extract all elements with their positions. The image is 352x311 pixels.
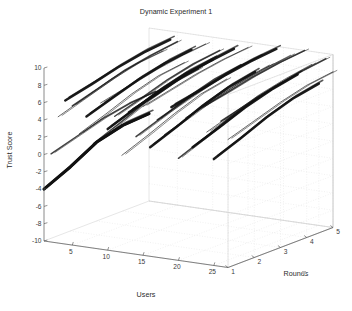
- floor-outline: [44, 201, 333, 268]
- chart-title: Dynamic Experiment 1: [140, 7, 212, 16]
- z-tick-mark: [44, 154, 47, 155]
- wall-left-grid-z: [149, 132, 333, 159]
- wall-left-grid-z: [149, 166, 333, 193]
- x-tick-label: 15: [138, 258, 146, 265]
- axis-panes: [44, 28, 333, 268]
- floor-grid-y: [70, 231, 254, 258]
- series-path-ribbon: [55, 90, 160, 152]
- z-tick-mark: [44, 119, 47, 120]
- plot3d-chart: Dynamic Experiment 1 -10-8-6-4-202468105…: [0, 0, 352, 311]
- z-tick-label: 0: [38, 151, 42, 158]
- y-tick-label: 4: [310, 238, 314, 245]
- z-tick-label: -4: [36, 185, 42, 192]
- z-tick-mark: [44, 102, 47, 103]
- z-tick-label: 6: [38, 99, 42, 106]
- z-axis-label: Trust Score: [5, 132, 14, 169]
- floor-grid-y: [123, 211, 307, 238]
- y-tick-label: 1: [231, 268, 235, 275]
- wall-left-grid-z: [149, 184, 333, 211]
- y-tick-mark: [278, 246, 281, 248]
- wall-left-grid-z: [149, 149, 333, 176]
- y-tick-mark: [252, 256, 255, 258]
- z-tick-mark: [44, 67, 47, 68]
- x-tick-label: 5: [69, 248, 73, 255]
- x-tick-label: 25: [209, 268, 217, 275]
- x-tick-label: 10: [103, 253, 111, 260]
- data-series: [79, 61, 188, 133]
- series-path-baseline: [44, 114, 149, 189]
- z-tick-label: 8: [38, 82, 42, 89]
- z-tick-label: -2: [36, 168, 42, 175]
- z-tick-label: -6: [36, 203, 42, 210]
- floor-grid-y: [97, 221, 281, 248]
- z-tick-label: -8: [36, 220, 42, 227]
- series-path: [214, 84, 319, 159]
- figure-canvas: Dynamic Experiment 1 -10-8-6-4-202468105…: [0, 0, 352, 311]
- data-series: [171, 46, 280, 108]
- corner-artifact: [302, 271, 306, 274]
- data-series-group: [44, 36, 337, 189]
- y-tick-label: 5: [336, 228, 340, 235]
- z-tick-label: -10: [32, 237, 42, 244]
- series-path-ribbon: [62, 49, 167, 115]
- z-tick-mark: [44, 84, 47, 85]
- z-tick-label: 4: [38, 116, 42, 123]
- data-series: [157, 53, 266, 119]
- floor-grid-x: [108, 210, 213, 250]
- z-tick-mark: [44, 171, 47, 172]
- data-series: [58, 49, 167, 116]
- z-tick-mark: [44, 205, 47, 206]
- y-tick-mark: [304, 236, 307, 238]
- grid-lines: [44, 28, 333, 268]
- z-tick-label: 2: [38, 134, 42, 141]
- z-tick-label: 10: [34, 64, 42, 71]
- z-tick-mark: [44, 223, 47, 224]
- y-tick-label: 3: [284, 248, 288, 255]
- x-axis-label: Users: [137, 290, 156, 299]
- x-tick-label: 20: [173, 263, 181, 270]
- z-tick-mark: [44, 136, 47, 137]
- y-tick-label: 2: [257, 258, 261, 265]
